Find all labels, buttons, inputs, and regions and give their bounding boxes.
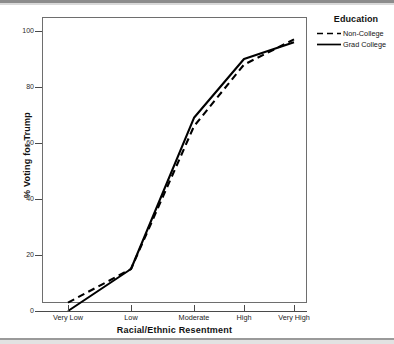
legend-dashed-line-icon [316,29,342,38]
x-axis-tick [131,305,132,312]
legend-solid-line-icon [316,40,342,49]
plot-area [42,17,307,303]
series-line-non-college [68,39,294,302]
y-axis-tick-label: 0 [4,307,34,314]
x-axis-tick-label-low: Low [124,313,137,322]
scan-artifact-bottom-band-light [0,340,394,344]
x-axis-title: Racial/Ethnic Resentment [42,325,307,335]
x-axis-tick-label-very-high: Very High [278,313,310,322]
y-axis-tick [35,87,42,88]
chart-figure: 100 80 60 40 20 0 Very Low Low Moderate … [0,0,394,344]
legend-item-non-college: Non-College [316,29,394,38]
y-axis-title: % Voting for Trump [22,80,32,230]
y-axis-tick [35,311,42,312]
series-line-grad-college [68,42,294,311]
x-axis-tick [244,305,245,312]
x-axis-tick [294,305,295,312]
y-axis-tick [35,199,42,200]
legend: Education Non-College Grad College [316,14,394,51]
legend-item-grad-college: Grad College [316,40,394,49]
legend-label-non-college: Non-College [343,29,384,38]
x-axis-tick [194,305,195,312]
series-svg [42,17,307,303]
y-axis-tick [35,143,42,144]
y-axis-tick [35,31,42,32]
x-axis-tick-label-moderate: Moderate [179,313,210,322]
y-axis-tick-label: 20 [4,251,34,258]
y-axis-tick [35,255,42,256]
x-axis-line [42,311,307,312]
x-axis-tick [68,305,69,312]
y-axis-tick-label: 100 [4,27,34,34]
legend-label-grad-college: Grad College [343,40,386,49]
x-axis-tick-label-very-low: Very Low [53,313,83,322]
x-axis-tick-label-high: High [236,313,251,322]
legend-title: Education [318,14,394,24]
